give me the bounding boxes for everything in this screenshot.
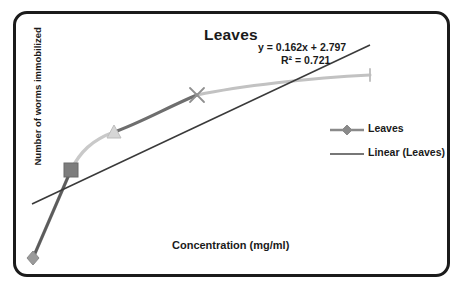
- trendline-equation-label: y = 0.162x + 2.797: [258, 41, 346, 53]
- chart-figure: Leaves y = 0.162x + 2.797 R² = 0.721 Con…: [0, 0, 465, 293]
- legend-label-leaves: Leaves: [368, 122, 404, 134]
- y-axis-label: Number of worms immobilized: [32, 46, 43, 166]
- legend-item-linear-leaves: Linear (Leaves): [330, 144, 448, 168]
- chart-legend: Leaves Linear (Leaves): [330, 120, 448, 168]
- legend-item-leaves: Leaves: [330, 120, 448, 144]
- r-squared-label: R² = 0.721: [281, 54, 330, 66]
- series-curve-mid: [114, 95, 197, 132]
- chart-title: Leaves: [204, 26, 258, 44]
- series-curve-stem: [33, 170, 71, 258]
- trendline: [32, 45, 370, 204]
- data-point-diamond: [27, 251, 39, 265]
- series-curve-light: [33, 132, 114, 258]
- data-point-square: [64, 163, 78, 177]
- legend-label-linear-leaves: Linear (Leaves): [368, 146, 445, 158]
- x-axis-label: Concentration (mg/ml): [172, 239, 289, 251]
